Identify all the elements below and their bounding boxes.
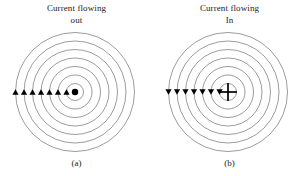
field-arrowhead-2 xyxy=(208,89,214,94)
field-arrowhead-7 xyxy=(12,89,18,94)
field-arrowhead-6 xyxy=(21,89,27,94)
field-arrowhead-5 xyxy=(29,89,35,94)
field-arrowhead-2 xyxy=(55,89,61,94)
panel-b-diagram xyxy=(153,28,306,156)
field-arrowhead-3 xyxy=(199,89,205,94)
panel-a-diagram xyxy=(0,28,153,156)
panel-a-center-marker xyxy=(72,89,78,95)
field-arrowhead-5 xyxy=(182,89,188,94)
field-arrowhead-4 xyxy=(191,89,197,94)
panel-b-center-marker xyxy=(219,83,237,101)
panel-b-caption: (b) xyxy=(153,158,306,168)
panel-a-caption: (a) xyxy=(0,158,153,168)
current-out-dot-icon xyxy=(72,89,78,95)
magnetic-field-figure: Current flowing out (a) Current flowing … xyxy=(0,0,306,176)
field-arrowhead-6 xyxy=(174,89,180,94)
panel-b-arrowheads xyxy=(165,89,222,94)
field-arrowhead-1 xyxy=(63,89,69,94)
field-arrowhead-7 xyxy=(165,89,171,94)
field-arrowhead-3 xyxy=(46,89,52,94)
field-arrowhead-4 xyxy=(38,89,44,94)
panel-b-title: Current flowing In xyxy=(153,3,306,26)
panel-b-title-line1: Current flowing xyxy=(200,3,259,13)
panel-a-title-line2: out xyxy=(0,15,153,27)
panel-a-title: Current flowing out xyxy=(0,3,153,26)
panel-b: Current flowing In (b) xyxy=(153,0,306,176)
panel-a-arrowheads xyxy=(12,89,69,94)
panel-a-title-line1: Current flowing xyxy=(47,3,106,13)
panel-a: Current flowing out (a) xyxy=(0,0,153,176)
panel-b-title-line2: In xyxy=(153,15,306,27)
